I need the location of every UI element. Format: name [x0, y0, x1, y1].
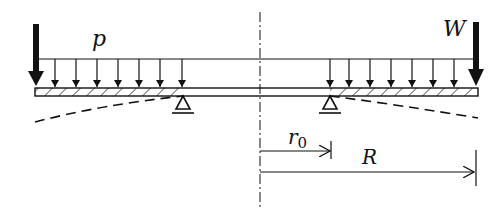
plate-diagram: p W r0 R [0, 0, 503, 212]
label-R: R [361, 145, 377, 169]
edge-load-right-arrow [468, 22, 484, 86]
label-r0-subscript: 0 [298, 134, 308, 152]
distributed-load-arrows-right [330, 59, 454, 87]
plate-hatched-left [35, 88, 183, 96]
label-p: p [92, 26, 106, 51]
distributed-load-arrows-left [55, 59, 182, 87]
edge-load-left-arrow [28, 24, 44, 86]
label-r0: r0 [288, 125, 307, 152]
plate-hatched-right [330, 88, 478, 96]
deflection-curve-right [330, 96, 478, 118]
support-right [319, 96, 341, 113]
deflection-curve-left [35, 96, 183, 122]
plate [35, 88, 478, 96]
label-W: W [443, 16, 468, 41]
support-left [172, 96, 194, 113]
